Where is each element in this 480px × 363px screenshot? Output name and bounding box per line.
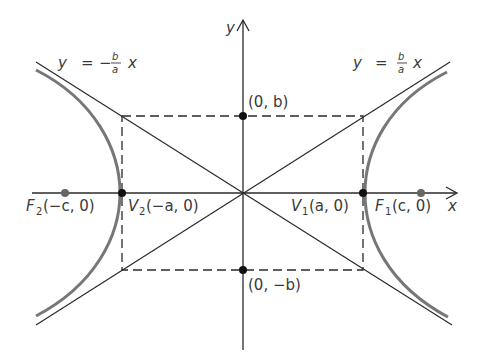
svg-text:y: y bbox=[352, 54, 363, 72]
svg-text:x: x bbox=[127, 54, 137, 72]
point-0-b bbox=[239, 112, 247, 120]
svg-text:(−a, 0): (−a, 0) bbox=[146, 197, 199, 215]
x-axis-label: x bbox=[447, 197, 457, 215]
vertex-v2-point bbox=[118, 189, 126, 197]
focus-f1-label: F 1 (c, 0) bbox=[375, 197, 431, 217]
vertex-v1-point bbox=[359, 189, 367, 197]
focus-f2-label: F 2 (−c, 0) bbox=[26, 197, 95, 217]
svg-text:a: a bbox=[398, 64, 404, 75]
y-axis-label: y bbox=[225, 19, 236, 37]
focus-f2-point bbox=[61, 189, 69, 197]
svg-text:=: = bbox=[81, 54, 94, 72]
svg-text:(c, 0): (c, 0) bbox=[392, 197, 431, 215]
asymptote-positive-label: y = b a x bbox=[352, 51, 422, 75]
vertex-v2-label: V 2 (−a, 0) bbox=[128, 197, 199, 217]
hyperbola-diagram: y x y = − b a x y = b a x (0, b) (0, −b)… bbox=[0, 0, 480, 363]
svg-text:1: 1 bbox=[302, 206, 308, 217]
point-0-b-label: (0, b) bbox=[248, 93, 288, 111]
focus-f1-point bbox=[417, 189, 425, 197]
svg-text:F: F bbox=[375, 197, 384, 215]
svg-text:1: 1 bbox=[385, 206, 391, 217]
svg-text:2: 2 bbox=[139, 206, 145, 217]
asymptote-negative-label: y = − b a x bbox=[57, 51, 137, 75]
y-axis bbox=[237, 20, 249, 350]
svg-text:(a, 0): (a, 0) bbox=[309, 197, 349, 215]
svg-text:2: 2 bbox=[36, 206, 42, 217]
svg-text:y: y bbox=[57, 54, 68, 72]
svg-text:−: − bbox=[99, 54, 112, 72]
point-0-neg-b-label: (0, −b) bbox=[248, 276, 301, 294]
point-0-neg-b bbox=[239, 266, 247, 274]
vertex-v1-label: V 1 (a, 0) bbox=[291, 197, 349, 217]
svg-text:F: F bbox=[26, 197, 35, 215]
svg-text:(−c, 0): (−c, 0) bbox=[43, 197, 95, 215]
svg-text:=: = bbox=[375, 54, 388, 72]
svg-text:a: a bbox=[112, 64, 118, 75]
svg-text:x: x bbox=[412, 54, 422, 72]
svg-text:b: b bbox=[112, 51, 118, 62]
svg-text:b: b bbox=[398, 51, 404, 62]
